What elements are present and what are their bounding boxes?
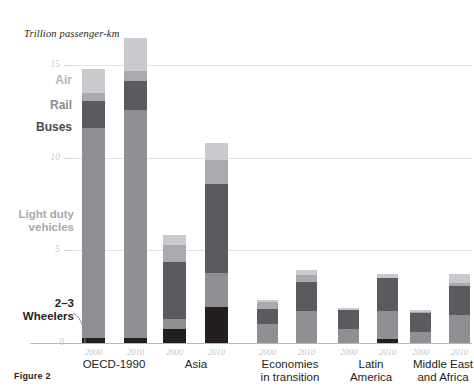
legend-label-wheelers-line1: 2–3 bbox=[0, 297, 74, 310]
bar-segment-light-duty-vehicles bbox=[296, 311, 317, 343]
x-axis-year-label-2000: 2000 bbox=[76, 347, 111, 357]
bar-segment-rail bbox=[82, 93, 105, 101]
bar-segment-buses bbox=[257, 309, 278, 325]
bar-segment-2-3-wheelers bbox=[205, 307, 228, 343]
bar-segment-2-3-wheelers bbox=[163, 329, 186, 343]
legend-label-buses: Buses bbox=[0, 120, 72, 134]
bar-segment-light-duty-vehicles bbox=[124, 110, 147, 338]
legend-label-light-duty-vehicles-line2: vehicles bbox=[0, 221, 74, 234]
bar-oecd-1990-2000[interactable] bbox=[82, 69, 105, 343]
bar-segment-buses bbox=[410, 313, 431, 332]
bar-segment-air bbox=[410, 310, 431, 312]
x-axis-year-label-2010: 2010 bbox=[443, 347, 474, 357]
y-axis-tick-label-10: 10 bbox=[34, 152, 60, 162]
x-axis-group-label-middle-east-and-africa: Middle Eastand Africa bbox=[383, 358, 474, 384]
x-axis-year-label-2000: 2000 bbox=[332, 347, 365, 357]
bar-middle-east-and-africa-2010[interactable] bbox=[449, 274, 470, 343]
figure-2-chart: Trillion passenger-km 05101520002010OECD… bbox=[0, 0, 474, 391]
bar-segment-air bbox=[205, 143, 228, 161]
bar-segment-buses bbox=[205, 184, 228, 273]
bar-segment-air bbox=[338, 308, 359, 310]
bar-segment-light-duty-vehicles bbox=[338, 329, 359, 343]
bar-segment-buses bbox=[338, 310, 359, 329]
bar-segment-rail bbox=[124, 71, 147, 81]
y-axis-tick-label-15: 15 bbox=[34, 59, 60, 69]
bar-economies-in-transition-2010[interactable] bbox=[296, 270, 317, 343]
bar-segment-light-duty-vehicles bbox=[377, 311, 398, 340]
bar-segment-buses bbox=[163, 262, 186, 319]
bar-segment-rail bbox=[449, 283, 470, 287]
legend-label-air: Air bbox=[0, 73, 72, 87]
bar-segment-rail bbox=[257, 302, 278, 308]
bar-segment-buses bbox=[296, 282, 317, 311]
bar-segment-air bbox=[163, 235, 186, 245]
bar-middle-east-and-africa-2000[interactable] bbox=[410, 310, 431, 343]
x-axis-year-label-2010: 2010 bbox=[371, 347, 404, 357]
bar-segment-buses bbox=[124, 81, 147, 111]
bar-segment-light-duty-vehicles bbox=[449, 315, 470, 343]
bar-economies-in-transition-2000[interactable] bbox=[257, 300, 278, 343]
bar-segment-air bbox=[257, 300, 278, 302]
group-label-line-2: and Africa bbox=[383, 371, 474, 384]
bar-segment-light-duty-vehicles bbox=[163, 319, 186, 329]
figure-caption: Figure 2 bbox=[14, 371, 51, 381]
bar-segment-air bbox=[377, 274, 398, 279]
bar-segment-2-3-wheelers bbox=[377, 339, 398, 343]
x-axis-year-label-2010: 2010 bbox=[118, 347, 153, 357]
group-label-line-1: Middle East bbox=[383, 358, 474, 371]
bar-asia-2000[interactable] bbox=[163, 235, 186, 343]
x-axis-year-label-2010: 2010 bbox=[199, 347, 234, 357]
bar-segment-rail bbox=[296, 275, 317, 281]
y-axis-tick-label-0: 0 bbox=[38, 337, 64, 347]
bar-segment-2-3-wheelers bbox=[124, 338, 147, 343]
bar-segment-rail bbox=[163, 245, 186, 263]
bar-segment-air bbox=[449, 274, 470, 282]
x-axis-year-label-2000: 2000 bbox=[251, 347, 284, 357]
bar-segment-air bbox=[296, 270, 317, 276]
bar-segment-light-duty-vehicles bbox=[410, 332, 431, 343]
legend-label-rail: Rail bbox=[0, 98, 72, 112]
bar-oecd-1990-2010[interactable] bbox=[124, 38, 147, 343]
bar-segment-rail bbox=[205, 160, 228, 183]
bar-latin-america-2010[interactable] bbox=[377, 274, 398, 344]
bar-segment-rail bbox=[410, 312, 431, 314]
bar-segment-air bbox=[124, 38, 147, 70]
tick-dash-5 bbox=[64, 250, 72, 251]
x-axis-baseline bbox=[30, 343, 472, 344]
legend-label-wheelers-line2: Wheelers bbox=[0, 310, 74, 323]
legend-label-light-duty-vehicles-line1: Light duty bbox=[0, 208, 74, 221]
x-axis-year-label-2000: 2000 bbox=[404, 347, 437, 357]
bar-segment-air bbox=[82, 69, 105, 93]
bar-segment-buses bbox=[449, 286, 470, 315]
x-axis-year-label-2010: 2010 bbox=[290, 347, 323, 357]
tick-dash-10 bbox=[64, 158, 72, 159]
x-axis-year-label-2000: 2000 bbox=[157, 347, 192, 357]
y-axis-tick-label-5: 5 bbox=[34, 244, 60, 254]
tick-dash-15 bbox=[64, 65, 72, 66]
bar-segment-buses bbox=[377, 278, 398, 310]
bar-segment-light-duty-vehicles bbox=[257, 324, 278, 343]
bar-segment-light-duty-vehicles bbox=[82, 128, 105, 338]
bar-segment-light-duty-vehicles bbox=[205, 273, 228, 307]
bar-segment-buses bbox=[82, 101, 105, 128]
bar-latin-america-2000[interactable] bbox=[338, 308, 359, 343]
bar-asia-2010[interactable] bbox=[205, 143, 228, 343]
wheelers-leader-line bbox=[72, 312, 92, 344]
